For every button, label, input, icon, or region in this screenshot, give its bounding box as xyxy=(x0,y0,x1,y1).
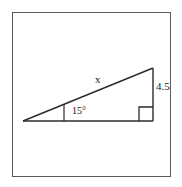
triangle-hypotenuse xyxy=(23,68,153,121)
geometry-figure: x 4.5 15° xyxy=(0,0,182,187)
angle-measure-label: 15° xyxy=(72,106,86,116)
right-angle-marker-icon xyxy=(139,107,153,121)
hypotenuse-label: x xyxy=(95,74,101,85)
triangle-drawing xyxy=(0,0,182,187)
vertical-leg-length-label: 4.5 xyxy=(156,81,170,92)
